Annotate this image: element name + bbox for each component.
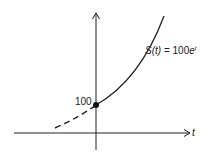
function-name: S(t) — [145, 45, 161, 56]
curve-equation-label: S(t) = 100et — [145, 45, 196, 56]
y-value-label: 100 — [75, 96, 92, 107]
equation-rhs: = 100 — [161, 45, 189, 56]
graph-canvas — [0, 0, 208, 156]
x-axis-label: t — [192, 127, 195, 138]
initial-value-point — [93, 102, 99, 108]
exponential-growth-diagram: S(t) = 100et 100 t — [0, 0, 208, 156]
curve-dashed-segment — [55, 105, 96, 128]
equation-exponent: t — [195, 45, 197, 51]
curve-solid-segment — [96, 16, 164, 105]
